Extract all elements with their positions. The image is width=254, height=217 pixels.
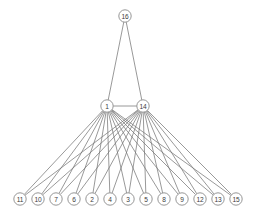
node-label-16: 16 (122, 13, 129, 20)
node-label-13: 13 (215, 196, 222, 203)
node-label-14: 14 (140, 103, 147, 110)
node-label-11: 11 (17, 196, 24, 203)
graph-node-14[interactable]: 14 (137, 100, 149, 112)
graph-node-15[interactable]: 15 (230, 193, 242, 205)
graph-edge-14-11 (25, 110, 138, 196)
node-label-1: 1 (105, 103, 109, 110)
graph-edge-14-6 (78, 111, 140, 194)
graph-node-8[interactable]: 8 (158, 193, 170, 205)
graph-node-16[interactable]: 16 (119, 10, 131, 22)
graph-node-9[interactable]: 9 (176, 193, 188, 205)
graph-diagram-canvas: 16114111076243589121315 (0, 0, 254, 217)
graph-edge-14-3 (129, 112, 142, 193)
graph-edge-14-8 (144, 112, 162, 193)
node-label-4: 4 (108, 196, 112, 203)
node-label-12: 12 (197, 196, 204, 203)
graph-node-11[interactable]: 11 (14, 193, 26, 205)
graph-edge-14-13 (147, 111, 214, 194)
graph-edge-16-1 (108, 22, 124, 100)
node-label-3: 3 (126, 196, 130, 203)
graph-edge-16-14 (126, 22, 142, 100)
graph-node-10[interactable]: 10 (32, 193, 44, 205)
graph-edge-14-5 (143, 112, 146, 193)
graph-node-12[interactable]: 12 (194, 193, 206, 205)
graph-node-5[interactable]: 5 (140, 193, 152, 205)
graph-node-4[interactable]: 4 (104, 193, 116, 205)
graph-node-13[interactable]: 13 (212, 193, 224, 205)
graph-node-1[interactable]: 1 (101, 100, 113, 112)
node-label-9: 9 (180, 196, 184, 203)
node-label-6: 6 (72, 196, 76, 203)
node-label-5: 5 (144, 196, 148, 203)
node-label-2: 2 (90, 196, 94, 203)
node-label-8: 8 (162, 196, 166, 203)
edge-layer (24, 22, 231, 195)
node-label-7: 7 (54, 196, 58, 203)
node-layer: 16114111076243589121315 (14, 10, 242, 205)
node-label-15: 15 (233, 196, 240, 203)
graph-node-3[interactable]: 3 (122, 193, 134, 205)
graph-edge-14-9 (145, 112, 179, 194)
graph-diagram-svg: 16114111076243589121315 (0, 0, 254, 217)
graph-edge-14-7 (60, 111, 139, 195)
graph-node-6[interactable]: 6 (68, 193, 80, 205)
node-label-10: 10 (35, 196, 42, 203)
graph-node-7[interactable]: 7 (50, 193, 62, 205)
graph-node-2[interactable]: 2 (86, 193, 98, 205)
